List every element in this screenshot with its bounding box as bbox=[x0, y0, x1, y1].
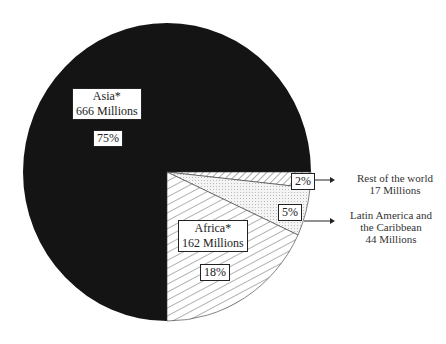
rest-percent: 2% bbox=[291, 173, 315, 190]
africa-percent: 18% bbox=[200, 264, 230, 281]
asia-label: Asia* 666 Millions bbox=[72, 88, 142, 120]
asia-percent: 75% bbox=[93, 130, 123, 147]
rest-callout: Rest of the world 17 Millions bbox=[345, 172, 445, 196]
latam-percent: 5% bbox=[278, 204, 302, 221]
latam-callout: Latin America and the Caribbean 44 Milli… bbox=[336, 209, 446, 245]
africa-label: Africa* 162 Millions bbox=[178, 220, 248, 252]
